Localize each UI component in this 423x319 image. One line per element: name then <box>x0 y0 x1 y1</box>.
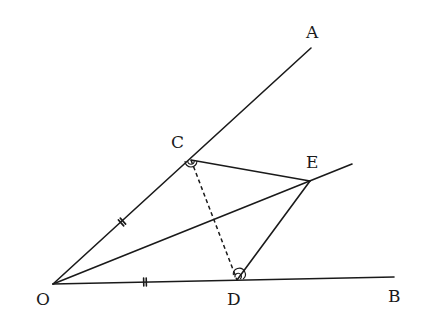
label-D: D <box>227 289 241 309</box>
ray-OA <box>53 48 311 284</box>
ray-OE <box>53 164 352 284</box>
geometry-diagram: O A B C D E <box>0 0 423 319</box>
label-B: B <box>388 286 401 306</box>
lines-group <box>53 48 394 284</box>
label-E: E <box>306 152 318 172</box>
marks-group <box>118 161 245 286</box>
label-A: A <box>305 22 319 42</box>
segment-CD <box>191 160 237 280</box>
label-C: C <box>171 132 184 152</box>
diagram-svg: O A B C D E <box>0 0 423 319</box>
segment-CE <box>191 160 310 181</box>
ray-OB <box>53 277 394 284</box>
label-O: O <box>36 289 50 309</box>
